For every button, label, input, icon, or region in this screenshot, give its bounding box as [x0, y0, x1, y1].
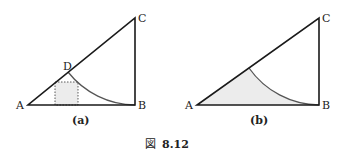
panel-a-label: (a): [72, 114, 90, 127]
arc-db: [68, 72, 135, 105]
dotted-square: [55, 82, 78, 105]
point-label-a: A: [15, 99, 25, 112]
panel-a: A B C D (a): [15, 12, 146, 127]
caption-number: 8.12: [162, 138, 189, 151]
figure-caption: 図 8.12: [145, 138, 189, 151]
triangle-abc: [28, 18, 135, 105]
panel-b: A B C (b): [184, 12, 330, 127]
panel-b-label: (b): [250, 114, 268, 127]
point-label-a: A: [184, 99, 194, 112]
caption-prefix: 図: [145, 138, 156, 151]
point-label-d: D: [63, 60, 72, 73]
point-label-c: C: [322, 12, 330, 25]
point-label-b: B: [138, 99, 146, 112]
point-label-c: C: [138, 12, 146, 25]
shaded-region: [197, 68, 319, 105]
point-label-b: B: [322, 99, 330, 112]
figure-canvas: A B C D (a) A B C (b) 図 8.12: [0, 0, 341, 155]
